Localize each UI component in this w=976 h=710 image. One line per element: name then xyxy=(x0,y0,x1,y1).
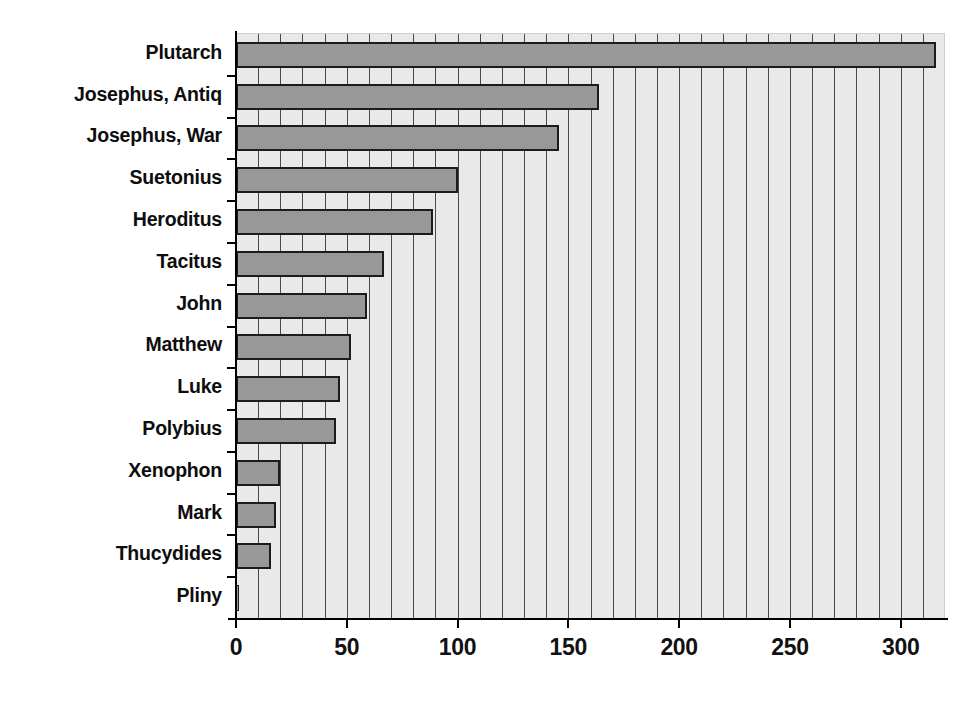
x-axis-tick-label: 300 xyxy=(861,634,941,661)
x-axis-tick-label: 250 xyxy=(750,634,830,661)
y-axis-tick xyxy=(227,409,236,411)
bar xyxy=(236,502,276,528)
y-axis-tick xyxy=(227,451,236,453)
x-axis-tick-label: 50 xyxy=(307,634,387,661)
y-axis-tick xyxy=(227,200,236,202)
x-axis-tick xyxy=(457,618,459,628)
bar xyxy=(236,84,599,110)
category-label: Mark xyxy=(4,501,222,524)
bar xyxy=(236,167,458,193)
category-label: Heroditus xyxy=(4,208,222,231)
category-label: John xyxy=(4,292,222,315)
y-axis-tick xyxy=(227,117,236,119)
y-axis-tick xyxy=(227,576,236,578)
bar xyxy=(236,125,559,151)
x-axis-line xyxy=(228,618,948,620)
category-label: Tacitus xyxy=(4,250,222,273)
y-axis-tick xyxy=(227,242,236,244)
bar xyxy=(236,209,433,235)
bar xyxy=(236,376,340,402)
x-axis-tick xyxy=(346,618,348,628)
category-label: Matthew xyxy=(4,333,222,356)
y-axis-tick xyxy=(227,326,236,328)
y-axis-tick xyxy=(227,534,236,536)
category-label: Plutarch xyxy=(4,41,222,64)
y-axis-tick xyxy=(227,75,236,77)
x-axis-tick-label: 200 xyxy=(639,634,719,661)
category-label: Luke xyxy=(4,375,222,398)
category-label: Polybius xyxy=(4,417,222,440)
x-axis-tick xyxy=(567,618,569,628)
y-axis-tick xyxy=(227,367,236,369)
category-label: Pliny xyxy=(4,584,222,607)
bar-chart: PlutarchJosephus, AntiqJosephus, WarSuet… xyxy=(0,0,976,710)
plot-area xyxy=(236,33,945,618)
category-label: Josephus, War xyxy=(4,124,222,147)
category-label: Xenophon xyxy=(4,459,222,482)
y-axis-tick xyxy=(227,284,236,286)
bar xyxy=(236,334,351,360)
category-label: Thucydides xyxy=(4,542,222,565)
bars-layer xyxy=(236,34,944,618)
x-axis-tick xyxy=(678,618,680,628)
bar xyxy=(236,251,384,277)
x-axis-tick xyxy=(789,618,791,628)
x-axis-tick-label: 150 xyxy=(528,634,608,661)
y-axis-tick xyxy=(227,493,236,495)
bar xyxy=(236,418,336,444)
x-axis-tick-label: 0 xyxy=(196,634,276,661)
y-axis-tick xyxy=(227,158,236,160)
bar xyxy=(236,42,936,68)
x-axis-tick xyxy=(235,618,237,628)
bar xyxy=(236,543,271,569)
category-label: Josephus, Antiq xyxy=(4,83,222,106)
bar xyxy=(236,460,280,486)
category-label: Suetonius xyxy=(4,166,222,189)
x-axis-tick xyxy=(900,618,902,628)
bar xyxy=(236,293,367,319)
x-axis-tick-label: 100 xyxy=(418,634,498,661)
